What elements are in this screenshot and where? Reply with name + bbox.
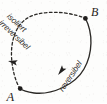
state-b-label: B [91, 5, 99, 19]
state-b-marker [83, 16, 88, 21]
thermodynamic-cycle-figure: A B isoliert irreversibel reversibel [0, 0, 107, 103]
state-a-label: A [6, 90, 15, 104]
state-a-marker [18, 86, 23, 91]
cycle-diagram-canvas: A B isoliert irreversibel reversibel [0, 0, 107, 103]
